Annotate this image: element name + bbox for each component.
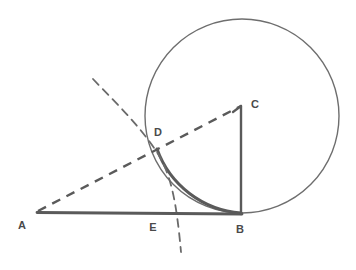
geometry-canvas: A B C D E [0,0,356,270]
point-label-c: C [251,98,259,110]
point-label-a: A [18,219,26,231]
compass-arc-icon [93,79,181,252]
point-label-e: E [149,221,156,233]
segment-ab [37,213,242,215]
segment-ac-dashed [38,106,241,211]
geometry-figure: A B C D E [0,0,356,270]
point-label-d: D [154,126,162,138]
point-label-b: B [236,223,244,235]
